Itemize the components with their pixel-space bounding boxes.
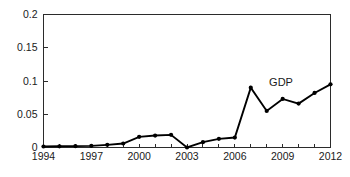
data-point — [105, 143, 109, 147]
data-point — [41, 144, 45, 148]
series-annotation-gdp: GDP — [269, 76, 293, 88]
x-tick-label: 2012 — [319, 150, 343, 162]
x-tick-label: 2003 — [175, 150, 199, 162]
data-point — [57, 144, 61, 148]
data-point — [265, 109, 269, 113]
data-point — [281, 97, 285, 101]
data-point — [328, 82, 332, 86]
data-point — [201, 140, 205, 144]
data-point — [169, 133, 173, 137]
data-point — [297, 102, 301, 106]
data-point — [153, 133, 157, 137]
series-line-gdp — [44, 84, 331, 147]
x-tick-label: 2009 — [271, 150, 295, 162]
data-point — [217, 137, 221, 141]
data-point — [121, 141, 125, 145]
data-point — [249, 86, 253, 90]
x-tick-label: 2000 — [127, 150, 151, 162]
y-tick-label: 0.15 — [17, 41, 38, 53]
data-point — [137, 135, 141, 139]
y-tick-label: 0.05 — [17, 108, 38, 120]
y-tick-label: 0.1 — [23, 75, 38, 87]
y-tick-label: 0.2 — [23, 8, 38, 20]
data-point — [233, 135, 237, 139]
x-tick-label: 2006 — [223, 150, 247, 162]
data-point — [73, 144, 77, 148]
gdp-line-chart: 00.050.10.150.21994199720002003200620092… — [0, 0, 350, 177]
data-point — [185, 145, 189, 149]
x-tick-label: 1997 — [80, 150, 104, 162]
data-point — [89, 144, 93, 148]
data-point — [312, 91, 316, 95]
x-tick-label: 1994 — [32, 150, 56, 162]
chart-canvas: 00.050.10.150.21994199720002003200620092… — [0, 0, 350, 177]
